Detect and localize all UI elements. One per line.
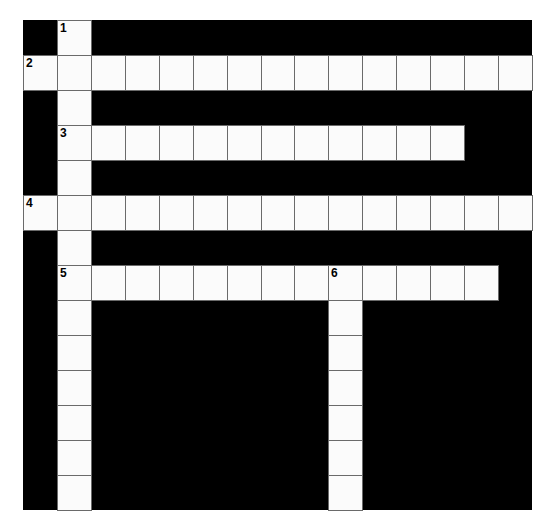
grid-cell[interactable]: 6 (328, 265, 363, 301)
clue-number: 6 (331, 267, 338, 279)
crossword-grid: 135246 (23, 20, 532, 510)
grid-cell[interactable] (498, 55, 533, 91)
grid-cell[interactable] (57, 90, 92, 126)
grid-cell[interactable] (464, 195, 499, 231)
grid-cell[interactable] (464, 55, 499, 91)
grid-cell[interactable] (328, 405, 363, 441)
clue-number: 4 (26, 197, 33, 209)
grid-cell[interactable] (328, 475, 363, 511)
grid-cell[interactable] (328, 370, 363, 406)
grid-cell[interactable] (396, 55, 431, 91)
grid-cell[interactable] (91, 55, 126, 91)
grid-cell[interactable] (294, 265, 329, 301)
grid-cell[interactable] (227, 195, 262, 231)
grid-cell[interactable] (328, 440, 363, 476)
grid-cell[interactable] (328, 55, 363, 91)
grid-cell[interactable] (57, 230, 92, 266)
grid-cell[interactable] (57, 370, 92, 406)
grid-cell[interactable] (125, 125, 160, 161)
grid-cell[interactable] (362, 195, 397, 231)
grid-cell[interactable] (125, 265, 160, 301)
grid-cell[interactable] (396, 265, 431, 301)
grid-cell[interactable] (294, 55, 329, 91)
grid-cell[interactable] (57, 195, 92, 231)
grid-cell[interactable] (227, 125, 262, 161)
grid-cell[interactable] (362, 55, 397, 91)
grid-cell[interactable] (57, 440, 92, 476)
grid-cell[interactable] (91, 265, 126, 301)
grid-cell[interactable] (125, 55, 160, 91)
grid-cell[interactable] (193, 195, 228, 231)
grid-cell[interactable] (57, 55, 92, 91)
grid-cell[interactable]: 3 (57, 125, 92, 161)
grid-cell[interactable] (57, 160, 92, 196)
grid-cell[interactable] (328, 300, 363, 336)
grid-cell[interactable] (396, 125, 431, 161)
clue-number: 2 (26, 57, 33, 69)
grid-cell[interactable] (362, 125, 397, 161)
grid-cell[interactable] (91, 125, 126, 161)
grid-cell[interactable] (362, 265, 397, 301)
clue-number: 5 (60, 267, 67, 279)
grid-cell[interactable] (193, 55, 228, 91)
clue-number: 3 (60, 127, 67, 139)
grid-cell[interactable] (396, 195, 431, 231)
grid-cell[interactable] (261, 125, 295, 161)
grid-cell[interactable] (193, 125, 228, 161)
grid-cell[interactable] (57, 300, 92, 336)
grid-cell[interactable]: 2 (23, 55, 58, 91)
grid-cell[interactable] (261, 55, 295, 91)
grid-cell[interactable] (464, 265, 499, 301)
grid-cell[interactable]: 1 (57, 20, 92, 56)
grid-cell[interactable] (57, 335, 92, 371)
grid-cell[interactable]: 4 (23, 195, 58, 231)
grid-cell[interactable] (159, 125, 194, 161)
grid-cell[interactable] (159, 195, 194, 231)
grid-cell[interactable] (159, 265, 194, 301)
grid-cell[interactable] (294, 125, 329, 161)
grid-cell[interactable] (430, 195, 465, 231)
clue-number: 1 (60, 22, 67, 34)
grid-cell[interactable] (261, 195, 295, 231)
grid-cell[interactable] (328, 335, 363, 371)
grid-cell[interactable] (261, 265, 295, 301)
grid-cell[interactable] (294, 195, 329, 231)
grid-cell[interactable] (193, 265, 228, 301)
grid-cell[interactable] (328, 195, 363, 231)
grid-cell[interactable] (91, 195, 126, 231)
grid-cell[interactable] (227, 55, 262, 91)
grid-cell[interactable] (328, 125, 363, 161)
grid-cell[interactable] (430, 265, 465, 301)
grid-cell[interactable] (430, 55, 465, 91)
grid-cell[interactable] (125, 195, 160, 231)
grid-cell[interactable] (227, 265, 262, 301)
grid-cell[interactable] (159, 55, 194, 91)
grid-cell[interactable] (498, 195, 533, 231)
grid-cell[interactable]: 5 (57, 265, 92, 301)
grid-cell[interactable] (57, 405, 92, 441)
grid-cell[interactable] (430, 125, 465, 161)
grid-cell[interactable] (57, 475, 92, 511)
